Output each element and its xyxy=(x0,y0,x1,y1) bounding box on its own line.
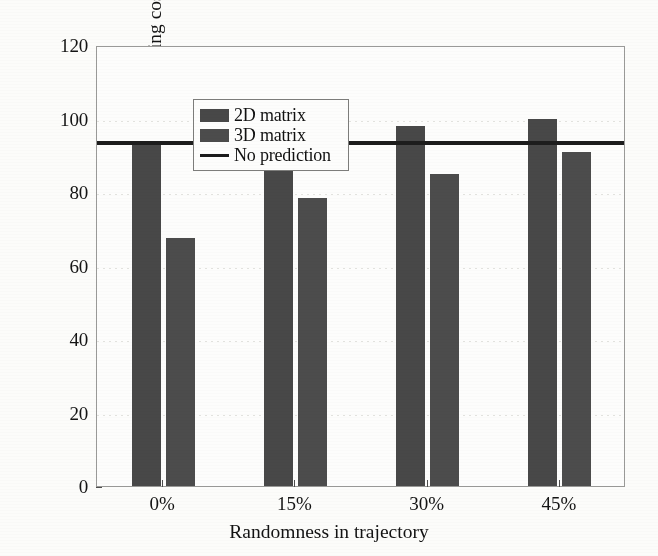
x-tick-mark xyxy=(559,480,560,487)
bar-2d-0pct xyxy=(132,141,161,486)
figure-canvas: HO signalling cost 020406080100120 2D ma… xyxy=(0,0,658,556)
x-tick-label: 45% xyxy=(541,493,576,515)
legend-item: No prediction xyxy=(200,145,341,165)
y-tick-label: 60 xyxy=(69,256,88,278)
bar-2d-45pct xyxy=(528,119,557,487)
legend-line-marker xyxy=(200,154,229,157)
x-tick-mark xyxy=(162,480,163,487)
x-tick-label: 30% xyxy=(409,493,444,515)
legend-label: 2D matrix xyxy=(234,105,306,126)
legend-swatch-marker xyxy=(200,109,229,122)
y-tick-label: 100 xyxy=(60,109,88,131)
y-axis: 020406080100120 xyxy=(0,0,96,556)
y-tick-mark xyxy=(96,487,102,488)
x-tick-mark xyxy=(427,480,428,487)
legend-swatch-marker xyxy=(200,129,229,142)
y-tick-label: 80 xyxy=(69,182,88,204)
x-tick-mark xyxy=(294,480,295,487)
y-tick-label: 40 xyxy=(69,329,88,351)
no-prediction-reference-line xyxy=(97,141,624,145)
legend-item: 3D matrix xyxy=(200,125,341,145)
legend-label: No prediction xyxy=(234,145,331,166)
y-tick-label: 120 xyxy=(60,35,88,57)
bar-2d-15pct xyxy=(264,135,293,486)
legend-label: 3D matrix xyxy=(234,125,306,146)
y-tick-label: 0 xyxy=(79,476,88,498)
bar-2d-30pct xyxy=(396,126,425,486)
legend: 2D matrix3D matrixNo prediction xyxy=(193,99,349,171)
bar-3d-45pct xyxy=(562,152,591,486)
x-tick-label: 0% xyxy=(149,493,174,515)
bar-3d-30pct xyxy=(430,174,459,486)
y-tick-label: 20 xyxy=(69,403,88,425)
plot-area: 2D matrix3D matrixNo prediction xyxy=(96,46,625,487)
x-tick-label: 15% xyxy=(277,493,312,515)
legend-item: 2D matrix xyxy=(200,105,341,125)
bar-3d-0pct xyxy=(166,238,195,486)
x-axis-title: Randomness in trajectory xyxy=(0,521,658,543)
bar-3d-15pct xyxy=(298,198,327,486)
